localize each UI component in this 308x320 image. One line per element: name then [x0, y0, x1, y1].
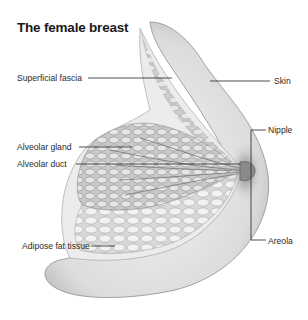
label-alveolar-duct: Alveolar duct [17, 159, 67, 169]
label-areola: Areola [268, 236, 293, 246]
diagram-title: The female breast [17, 20, 128, 35]
label-nipple: Nipple [268, 125, 292, 135]
label-alveolar-gland: Alveolar gland [17, 142, 71, 152]
label-superficial-fascia: Superficial fascia [17, 73, 82, 83]
label-adipose-fat-tissue: Adipose fat tissue [22, 241, 90, 251]
label-skin: Skin [274, 76, 291, 86]
